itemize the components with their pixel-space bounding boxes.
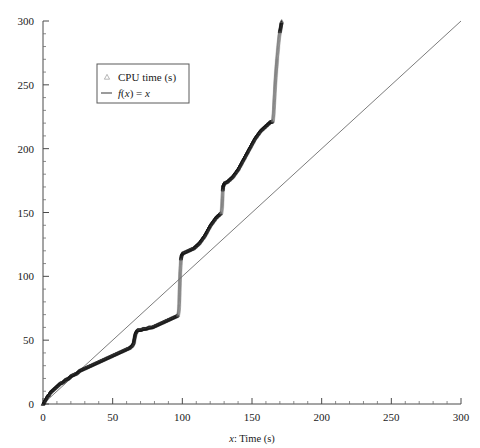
y-axis-tick-label: 100 [18,270,35,282]
y-axis-tick-label: 250 [18,79,35,91]
y-axis-tick-label: 300 [18,15,35,27]
y-axis-tick-label: 0 [29,398,35,410]
chart-figure: 050100150200250300050100150200250300x: T… [0,0,480,448]
x-axis-tick-label: 200 [313,411,330,423]
x-axis-tick-label: 150 [244,411,261,423]
x-axis-tick-label: 250 [383,411,400,423]
y-axis-tick-label: 50 [23,334,35,346]
chart-legend: CPU time (s)f(x) = x [97,64,189,103]
cpu-time-scatter-chart: 050100150200250300050100150200250300x: T… [0,0,480,448]
x-axis-tick-label: 300 [453,411,470,423]
x-axis-tick-label: 50 [107,411,119,423]
legend-label-identity: f(x) = x [118,87,150,100]
legend-label-cpu-time: CPU time (s) [118,71,176,84]
y-axis-tick-label: 200 [18,143,35,155]
y-axis-tick-label: 150 [18,207,35,219]
x-axis-tick-label: 0 [40,411,46,423]
x-axis-title: x: Time (s) [228,433,275,445]
x-axis-tick-label: 100 [174,411,191,423]
